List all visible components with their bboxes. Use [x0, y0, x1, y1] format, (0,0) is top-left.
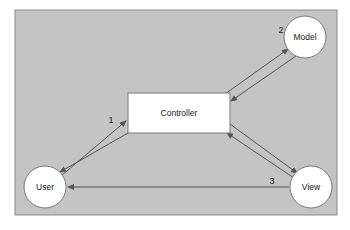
node-view-label: View	[302, 182, 321, 192]
step-label-1: 1	[108, 115, 113, 125]
node-controller-label: Controller	[161, 108, 198, 118]
node-model-label: Model	[293, 32, 316, 42]
step-label-2: 2	[278, 25, 283, 35]
diagram-canvas: Model Controller User View 123	[0, 0, 350, 230]
step-label-3: 3	[269, 176, 274, 186]
mvc-diagram: Model Controller User View 123	[0, 0, 350, 230]
node-user-label: User	[36, 182, 54, 192]
